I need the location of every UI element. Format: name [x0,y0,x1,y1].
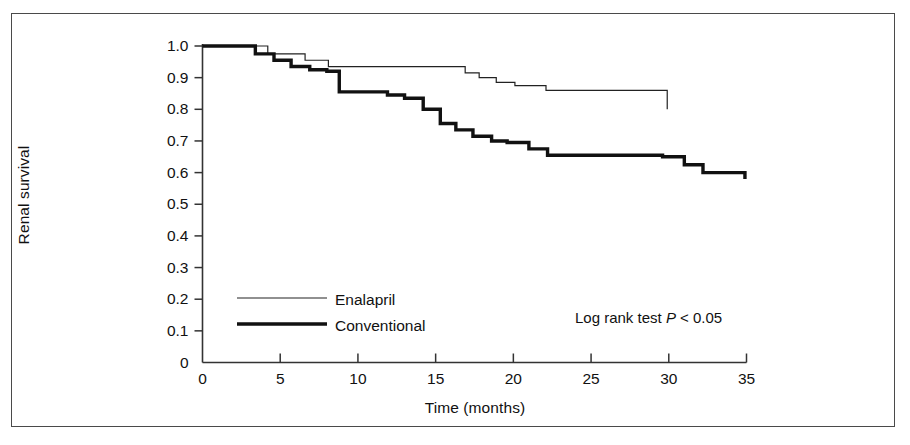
y-tick-label-0.9: 0.9 [147,70,189,86]
x-tick-label-30: 30 [649,371,689,387]
y-tick-label-0.4: 0.4 [147,228,189,244]
curve-conventional [203,46,745,179]
y-tick-label-0.3: 0.3 [147,260,189,276]
annotation-p-symbol: P [666,309,676,326]
y-tick-label-0.5: 0.5 [147,196,189,212]
y-tick-label-0.7: 0.7 [147,133,189,149]
y-tick-label-0.8: 0.8 [147,101,189,117]
y-tick-label-0.1: 0.1 [147,323,189,339]
annotation-text-before: Log rank test [575,309,666,326]
legend-label-conventional: Conventional [335,317,425,335]
legend-label-enalapril: Enalapril [335,291,395,309]
x-tick-label-15: 15 [416,371,456,387]
y-axis-title: Renal survival [15,125,33,265]
x-tick-label-25: 25 [571,371,611,387]
x-axis-title: Time (months) [340,399,610,417]
annotation-text-after: < 0.05 [676,309,722,326]
y-tick-label-0: 0 [147,355,189,371]
x-tick-label-35: 35 [727,371,767,387]
y-tick-label-0.2: 0.2 [147,291,189,307]
y-tick-label-1.0: 1.0 [147,38,189,54]
x-tick-label-10: 10 [338,371,378,387]
x-tick-label-0: 0 [183,371,223,387]
x-tick-label-20: 20 [493,371,533,387]
x-tick-label-5: 5 [260,371,300,387]
kaplan-meier-chart: Renal survival Time (months) 00.10.20.30… [0,0,910,445]
y-tick-label-0.6: 0.6 [147,165,189,181]
log-rank-annotation: Log rank test P < 0.05 [575,309,722,326]
